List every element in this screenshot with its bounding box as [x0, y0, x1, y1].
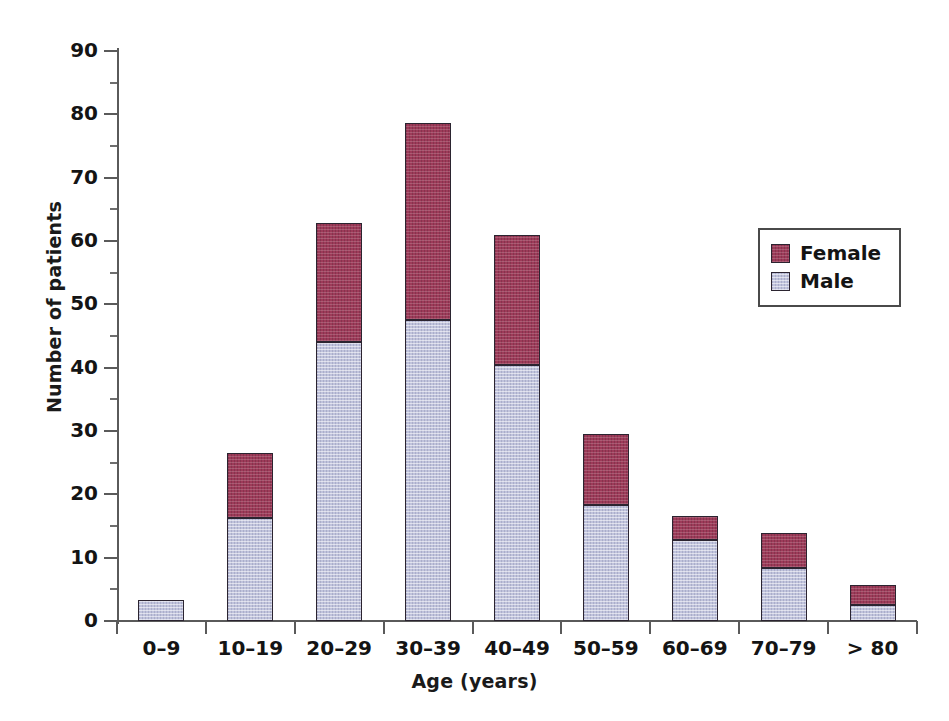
x-tick	[383, 621, 385, 634]
bar-segment-male	[316, 342, 362, 621]
bar-stack	[138, 600, 184, 621]
y-tick-label: 60	[28, 228, 98, 252]
x-tick	[649, 621, 651, 634]
y-tick-major	[104, 240, 117, 242]
x-tick-label: 70–79	[739, 636, 828, 660]
bar-segment-male	[850, 605, 896, 621]
bar-segment-male	[583, 505, 629, 621]
bar-segment-male	[761, 568, 807, 621]
y-tick-major	[104, 557, 117, 559]
bar-stack	[494, 235, 540, 621]
x-tick-label: > 80	[828, 636, 917, 660]
y-tick-label: 50	[28, 291, 98, 315]
bar-segment-male	[405, 320, 451, 621]
y-tick-major	[104, 430, 117, 432]
x-tick-label: 60–69	[650, 636, 739, 660]
x-tick	[738, 621, 740, 634]
x-tick	[294, 621, 296, 634]
y-tick-label: 70	[28, 165, 98, 189]
bar-stack	[405, 123, 451, 621]
bar-segment-male	[227, 518, 273, 621]
bar-segment-male	[494, 365, 540, 621]
bar-stack	[850, 585, 896, 621]
y-tick-minor	[110, 272, 117, 274]
y-tick-minor	[110, 588, 117, 590]
bar-segment-female	[227, 453, 273, 518]
x-tick	[916, 621, 918, 634]
bar-stack	[672, 516, 718, 621]
legend-label-female: Female	[800, 243, 881, 263]
x-tick-label: 10–19	[206, 636, 295, 660]
y-tick-major	[104, 113, 117, 115]
x-tick	[827, 621, 829, 634]
y-tick-label: 10	[28, 545, 98, 569]
bar-segment-female	[405, 123, 451, 320]
y-tick-major	[104, 177, 117, 179]
bar-segment-female	[672, 516, 718, 540]
y-tick-minor	[110, 82, 117, 84]
x-tick	[560, 621, 562, 634]
y-tick-label: 40	[28, 355, 98, 379]
bar-segment-male	[672, 540, 718, 621]
y-tick-label: 20	[28, 481, 98, 505]
bar-stack	[316, 223, 362, 621]
bar-segment-male	[138, 600, 184, 621]
y-tick-label: 80	[28, 101, 98, 125]
legend-item-male: Male	[771, 267, 888, 295]
legend-swatch-female-icon	[771, 244, 790, 263]
x-tick-label: 0–9	[117, 636, 206, 660]
y-tick-major	[104, 367, 117, 369]
x-axis-title: Age (years)	[0, 670, 949, 692]
x-tick-label: 30–39	[384, 636, 473, 660]
y-tick-minor	[110, 145, 117, 147]
x-tick	[205, 621, 207, 634]
bar-stack	[761, 533, 807, 621]
plot-area	[117, 51, 917, 621]
y-tick-major	[104, 493, 117, 495]
y-tick-minor	[110, 525, 117, 527]
legend-label-male: Male	[800, 271, 854, 291]
bar-stack	[227, 453, 273, 621]
y-tick-minor	[110, 335, 117, 337]
y-tick-label: 30	[28, 418, 98, 442]
legend-item-female: Female	[771, 239, 888, 267]
x-tick-label: 20–29	[295, 636, 384, 660]
y-tick-minor	[110, 462, 117, 464]
bar-segment-female	[494, 235, 540, 365]
bar-segment-female	[850, 585, 896, 605]
y-tick-minor	[110, 398, 117, 400]
chart-legend: Female Male	[758, 228, 901, 307]
x-tick-label: 40–49	[473, 636, 562, 660]
bar-segment-female	[761, 533, 807, 568]
y-tick-label: 90	[28, 38, 98, 62]
bar-chart: Number of patients 0102030405060708090 0…	[0, 0, 949, 721]
bar-segment-female	[316, 223, 362, 341]
x-tick-label: 50–59	[561, 636, 650, 660]
y-tick-major	[104, 50, 117, 52]
x-tick	[116, 621, 118, 634]
y-tick-label: 0	[28, 608, 98, 632]
legend-swatch-male-icon	[771, 272, 790, 291]
x-tick	[472, 621, 474, 634]
y-tick-major	[104, 303, 117, 305]
y-tick-minor	[110, 208, 117, 210]
bar-segment-female	[583, 434, 629, 505]
bar-stack	[583, 434, 629, 621]
